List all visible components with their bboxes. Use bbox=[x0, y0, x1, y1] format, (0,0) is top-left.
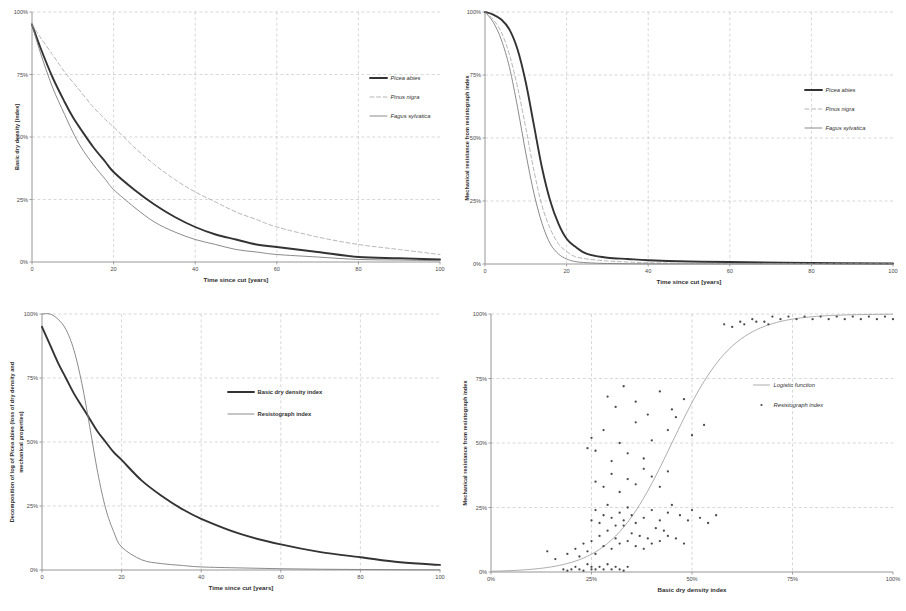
series-line-fagus-sylvatica bbox=[32, 25, 440, 261]
scatter-point bbox=[868, 315, 870, 317]
y-axis-title: mechanical properties) bbox=[18, 411, 24, 472]
y-tick-label: 75% bbox=[17, 72, 28, 78]
scatter-point bbox=[671, 504, 673, 506]
scatter-point bbox=[852, 315, 854, 317]
scatter-point bbox=[643, 468, 645, 470]
x-tick-label: 100 bbox=[888, 268, 897, 274]
scatter-point bbox=[578, 555, 580, 557]
scatter-point bbox=[570, 568, 572, 570]
scatter-point bbox=[574, 548, 576, 550]
x-tick-label: 20 bbox=[118, 574, 124, 580]
scatter-point bbox=[755, 321, 757, 323]
x-axis-title: Time since cut [years] bbox=[209, 584, 274, 591]
chart-top-left: 0%25%50%75%100%020406080100Time since cu… bbox=[0, 0, 453, 300]
scatter-point bbox=[687, 519, 689, 521]
scatter-point bbox=[610, 473, 612, 475]
y-tick-label: 50% bbox=[27, 439, 38, 445]
scatter-point bbox=[562, 568, 564, 570]
scatter-point bbox=[631, 514, 633, 516]
scatter-point bbox=[627, 452, 629, 454]
legend-label: Picea abies bbox=[826, 87, 856, 93]
scatter-point bbox=[614, 566, 616, 568]
scatter-point bbox=[594, 509, 596, 511]
scatter-point bbox=[623, 519, 625, 521]
chart-bottom-right: 0%25%50%75%100%0%25%50%75%100%Basic dry … bbox=[453, 300, 906, 611]
x-tick-label: 60 bbox=[278, 574, 284, 580]
scatter-point bbox=[659, 390, 661, 392]
y-tick-label: 100% bbox=[467, 9, 481, 15]
scatter-point bbox=[546, 550, 548, 552]
x-tick-label: 40 bbox=[198, 574, 204, 580]
scatter-point bbox=[590, 568, 592, 570]
scatter-point bbox=[659, 519, 661, 521]
scatter-point bbox=[844, 318, 846, 320]
scatter-point bbox=[614, 524, 616, 526]
scatter-point bbox=[635, 522, 637, 524]
panel-basic-dry-density-decay: 0%25%50%75%100%020406080100Time since cu… bbox=[0, 0, 453, 300]
scatter-point bbox=[651, 439, 653, 441]
scatter-point bbox=[606, 504, 608, 506]
scatter-point bbox=[787, 315, 789, 317]
scatter-point bbox=[623, 524, 625, 526]
scatter-point bbox=[623, 570, 625, 572]
y-tick-label: 75% bbox=[27, 375, 38, 381]
x-tick-label: 0 bbox=[483, 268, 486, 274]
scatter-point bbox=[635, 483, 637, 485]
scatter-point bbox=[819, 315, 821, 317]
scatter-point bbox=[610, 548, 612, 550]
scatter-point bbox=[602, 568, 604, 570]
scatter-point bbox=[586, 550, 588, 552]
scatter-point bbox=[743, 323, 745, 325]
scatter-point bbox=[627, 506, 629, 508]
scatter-point bbox=[655, 527, 657, 529]
scatter-point bbox=[590, 437, 592, 439]
scatter-point bbox=[627, 566, 629, 568]
x-tick-label: 100 bbox=[435, 574, 444, 580]
scatter-point bbox=[671, 408, 673, 410]
x-axis-title: Basic dry density index bbox=[657, 586, 727, 593]
scatter-point bbox=[739, 321, 741, 323]
scatter-point bbox=[618, 491, 620, 493]
legend-label: Logistic function bbox=[774, 382, 816, 388]
series-line-pinus-nigra bbox=[32, 25, 440, 255]
scatter-point bbox=[771, 315, 773, 317]
x-tick-label: 80 bbox=[355, 266, 361, 272]
y-tick-label: 100% bbox=[473, 311, 487, 317]
scatter-point bbox=[635, 545, 637, 547]
scatter-point bbox=[614, 406, 616, 408]
scatter-point bbox=[667, 470, 669, 472]
x-tick-label: 0 bbox=[30, 266, 33, 272]
scatter-point bbox=[635, 401, 637, 403]
scatter-point bbox=[566, 570, 568, 572]
x-tick-label: 20 bbox=[563, 268, 569, 274]
x-tick-label: 40 bbox=[192, 266, 198, 272]
scatter-point bbox=[618, 512, 620, 514]
scatter-point bbox=[659, 540, 661, 542]
scatter-point bbox=[715, 514, 717, 516]
scatter-point bbox=[691, 434, 693, 436]
scatter-point bbox=[647, 537, 649, 539]
scatter-point bbox=[586, 563, 588, 565]
scatter-point bbox=[602, 486, 604, 488]
x-tick-label: 0 bbox=[40, 574, 43, 580]
x-tick-label: 40 bbox=[645, 268, 651, 274]
scatter-point bbox=[643, 548, 645, 550]
panel-resistograph-vs-density-scatter: 0%25%50%75%100%0%25%50%75%100%Basic dry … bbox=[453, 300, 906, 611]
scatter-point bbox=[590, 519, 592, 521]
legend-label: Picea abies bbox=[391, 75, 421, 81]
scatter-point bbox=[751, 318, 753, 320]
scatter-point bbox=[763, 321, 765, 323]
legend-marker-points bbox=[760, 404, 762, 406]
x-tick-label: 25% bbox=[586, 576, 597, 582]
panel-picea-abies-decomposition: 0%25%50%75%100%020406080100Time since cu… bbox=[0, 300, 453, 611]
scatter-point bbox=[643, 517, 645, 519]
scatter-point bbox=[606, 530, 608, 532]
scatter-point bbox=[811, 318, 813, 320]
scatter-point bbox=[618, 542, 620, 544]
x-tick-label: 100 bbox=[435, 266, 444, 272]
legend-label: Pinus nigra bbox=[826, 106, 856, 112]
y-tick-label: 50% bbox=[476, 440, 487, 446]
y-tick-label: 25% bbox=[470, 198, 481, 204]
scatter-point bbox=[598, 522, 600, 524]
scatter-point bbox=[590, 566, 592, 568]
